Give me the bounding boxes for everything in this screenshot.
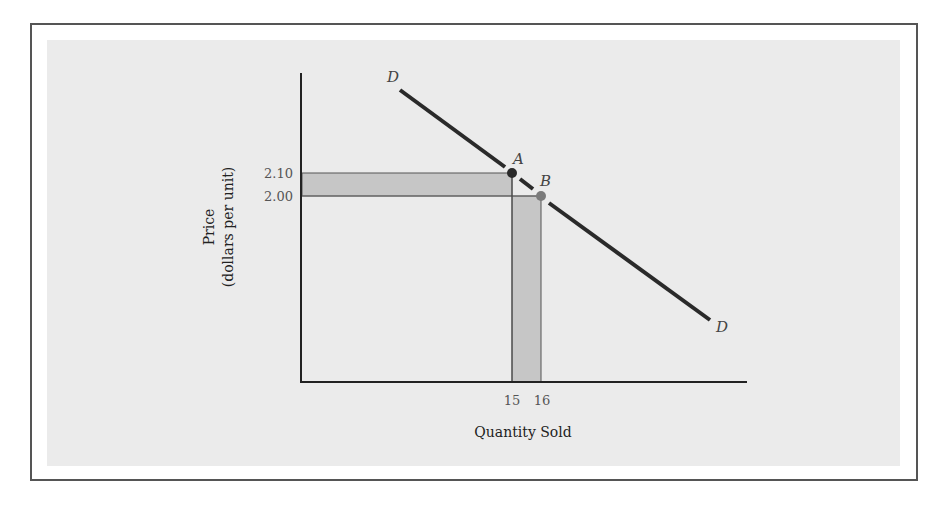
y-axis-subtitle: (dollars per unit) bbox=[220, 167, 236, 287]
demand-curve-upper bbox=[400, 90, 505, 167]
y-tick-200: 2.00 bbox=[264, 189, 293, 204]
point-b-label: B bbox=[539, 172, 551, 190]
demand-curve-segment bbox=[520, 179, 533, 189]
point-b-marker bbox=[536, 191, 546, 201]
demand-chart: D D A B 2.10 2.00 15 16 Quantity Sold Pr… bbox=[0, 0, 943, 511]
curve-label-bottom: D bbox=[715, 318, 728, 336]
quantity-shade-region bbox=[512, 196, 541, 382]
demand-curve-lower bbox=[549, 203, 710, 320]
x-axis-title: Quantity Sold bbox=[474, 424, 571, 440]
point-a-marker bbox=[507, 168, 517, 178]
y-axis-title: Price bbox=[201, 209, 217, 246]
y-tick-210: 2.10 bbox=[264, 166, 293, 181]
curve-label-top: D bbox=[386, 68, 399, 86]
point-a-label: A bbox=[511, 150, 524, 168]
x-tick-15: 15 bbox=[504, 393, 521, 408]
x-tick-16: 16 bbox=[534, 393, 551, 408]
price-shade-region bbox=[302, 173, 512, 196]
